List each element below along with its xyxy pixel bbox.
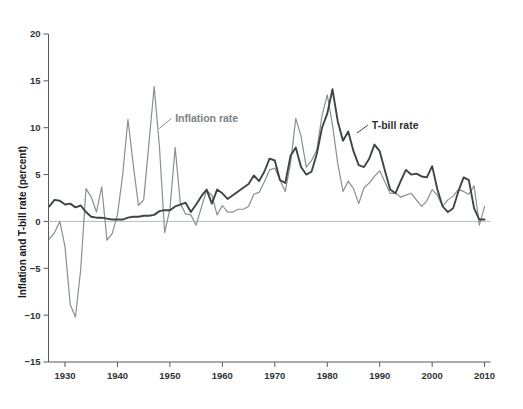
- inflation-rate-label: Inflation rate: [175, 112, 238, 124]
- x-tick-label: 1930: [54, 370, 75, 381]
- y-tick-label: 15: [30, 75, 41, 86]
- x-tick-label: 1940: [107, 370, 128, 381]
- axis-spine: [49, 34, 491, 362]
- series-line-inflation-rate: [49, 86, 484, 317]
- y-tick-label: −5: [30, 263, 42, 274]
- y-tick-label: 20: [30, 28, 41, 39]
- y-tick-label: 10: [30, 122, 41, 133]
- x-tick-label: 1980: [317, 370, 338, 381]
- y-tick-label: −15: [24, 356, 41, 367]
- x-axis-ticks: 193019401950196019701980199020002010: [54, 362, 495, 381]
- x-tick-label: 1960: [212, 370, 233, 381]
- y-axis-title: Inflation and T-bill rate (percent): [17, 146, 28, 298]
- y-tick-label: 5: [35, 169, 41, 180]
- series-line-t-bill-rate: [49, 89, 484, 219]
- y-tick-label: −10: [24, 310, 40, 321]
- t-bill-rate-label-leader-line: [357, 125, 368, 133]
- x-tick-label: 1990: [369, 370, 390, 381]
- series-group: [49, 86, 484, 317]
- x-tick-label: 1970: [264, 370, 285, 381]
- chart-figure: Inflation and T-bill rate (percent) 2015…: [0, 0, 523, 409]
- t-bill-rate-label: T-bill rate: [372, 119, 419, 131]
- x-tick-label: 1950: [159, 370, 180, 381]
- annotation-group: Inflation rateT-bill rate: [159, 112, 419, 133]
- inflation-tbill-line-chart: Inflation and T-bill rate (percent) 2015…: [0, 0, 523, 409]
- y-tick-label: 0: [35, 216, 40, 227]
- x-tick-label: 2000: [422, 370, 443, 381]
- inflation-rate-label-leader-line: [159, 119, 171, 129]
- x-tick-label: 2010: [474, 370, 495, 381]
